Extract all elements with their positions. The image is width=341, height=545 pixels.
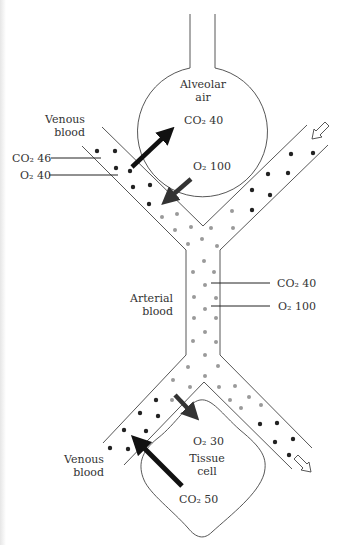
co2-to-venous-arrow	[138, 442, 182, 486]
tissue-label-1: Tissue	[189, 452, 225, 465]
venous-top-label-2: blood	[54, 126, 85, 139]
alveolar-label-2: air	[195, 91, 211, 104]
tissue-label-2: cell	[197, 465, 217, 478]
alveolar-label-1: Alveolar	[179, 78, 227, 91]
arterial-label-1: Arterial	[129, 292, 173, 305]
upper-vessels	[82, 125, 328, 250]
tissue-co2-label: CO₂ 50	[179, 493, 218, 506]
tissue-o2-label: O₂ 30	[193, 435, 224, 448]
arterial-stem	[186, 250, 220, 355]
venous-bottom-label-1: Venous	[63, 453, 104, 466]
outflow-hollow-arrow-icon	[294, 455, 311, 472]
gas-exchange-diagram: Alveolar air CO₂ 40 O₂ 100 Venous blood …	[0, 0, 341, 545]
inflow-hollow-arrow-icon	[312, 122, 329, 139]
airway	[190, 14, 215, 68]
alveolar-o2-label: O₂ 100	[193, 160, 231, 173]
arterial-label-2: blood	[142, 305, 173, 318]
venous-bottom-label-2: blood	[73, 466, 104, 479]
arterial-co2-label: CO₂ 40	[277, 277, 316, 290]
arterial-o2-label: O₂ 100	[278, 300, 316, 313]
venous-top-label-1: Venous	[44, 113, 85, 126]
alveolar-co2-label: CO₂ 40	[184, 114, 223, 127]
venous-top-co2-label: CO₂ 46	[12, 152, 51, 165]
venous-top-o2-label: O₂ 40	[20, 169, 51, 182]
